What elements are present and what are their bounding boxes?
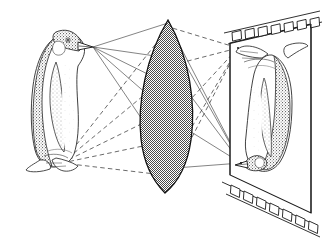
diagram-canvas [0,0,331,238]
image-point-beak [240,162,242,164]
optics-diagram-figure: Lens imaging diagram: penguin photograph… [0,0,331,238]
image-point-feet [237,47,239,49]
